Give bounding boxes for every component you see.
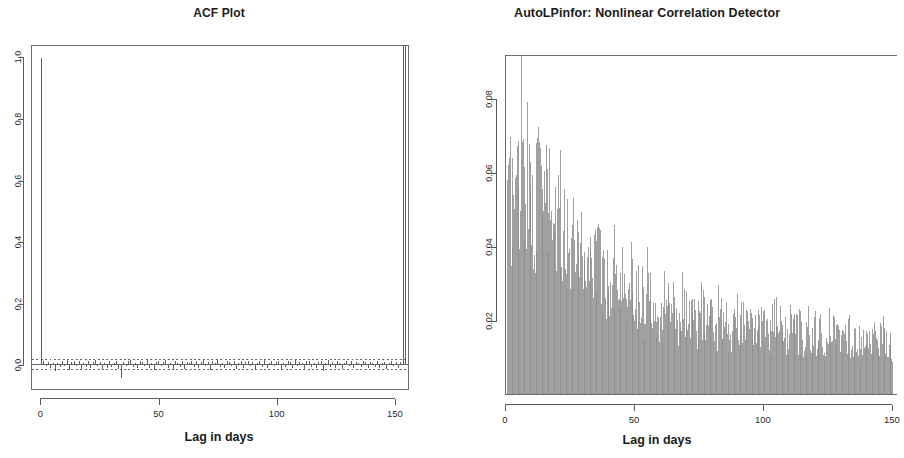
right-x-tick (763, 405, 764, 411)
right-x-tick (892, 405, 893, 411)
left-y-tick-label: 0.0 (12, 352, 24, 378)
autolpinfor-plot-area (505, 55, 897, 395)
acf-plot-area (31, 45, 409, 390)
left-y-tick-label: 0.6 (12, 168, 24, 194)
left-y-tick-label: 0.4 (12, 229, 24, 255)
left-x-tick-label: 150 (375, 408, 415, 419)
left-y-tick-label: 1.0 (12, 44, 24, 70)
panel-acf-plot: ACF Plot 0.00.20.40.60.81.0 050100150 La… (0, 0, 438, 458)
left-x-tick-label: 100 (257, 408, 297, 419)
autolpinfor-y-axis (496, 99, 497, 321)
left-x-tick-label: 50 (139, 408, 179, 419)
right-x-tick-label: 150 (872, 414, 904, 425)
right-y-tick-label: 0.02 (483, 308, 495, 334)
left-x-tick (159, 399, 160, 405)
right-y-tick-label: 0.06 (483, 160, 495, 186)
acf-y-axis (23, 57, 24, 365)
acf-x-axis (40, 398, 394, 399)
acf-plot-title: ACF Plot (0, 6, 438, 20)
left-y-tick-label: 0.8 (12, 106, 24, 132)
left-x-tick (40, 399, 41, 405)
autolpinfor-x-axis (505, 404, 892, 405)
autolpinfor-plot-title: AutoLPinfor: Nonlinear Correlation Detec… (514, 6, 876, 20)
left-y-tick-label: 0.2 (12, 291, 24, 317)
autolpinfor-x-axis-title: Lag in days (438, 433, 876, 447)
acf-x-axis-title: Lag in days (0, 430, 438, 444)
right-y-tick-label: 0.04 (483, 234, 495, 260)
right-x-tick-label: 50 (614, 414, 654, 425)
autolpinfor-data-surface (506, 56, 897, 394)
right-x-tick-label: 100 (743, 414, 783, 425)
right-y-tick-label: 0.08 (483, 86, 495, 112)
right-x-tick-label: 0 (485, 414, 525, 425)
panel-autolpinfor-plot: AutoLPinfor: Nonlinear Correlation Detec… (438, 0, 876, 458)
acf-data-surface (32, 46, 408, 389)
left-x-tick-label: 0 (20, 408, 60, 419)
left-x-tick (395, 399, 396, 405)
right-x-tick (634, 405, 635, 411)
right-x-tick (505, 405, 506, 411)
left-x-tick (277, 399, 278, 405)
